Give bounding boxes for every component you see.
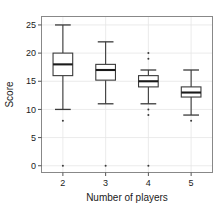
outlier-point — [190, 120, 192, 122]
outlier-point — [147, 114, 149, 116]
y-tick-label: 5 — [31, 133, 36, 143]
x-tick-label: 5 — [189, 178, 194, 188]
boxplot-canvas: 05101520252345Number of playersScore — [0, 0, 220, 211]
y-tick-label: 25 — [26, 20, 36, 30]
boxplot-figure: 05101520252345Number of playersScore — [0, 0, 220, 211]
box-iqr — [96, 64, 116, 80]
outlier-point — [147, 108, 149, 110]
y-tick-label: 20 — [26, 48, 36, 58]
y-axis-title: Score — [4, 81, 15, 108]
outlier-point — [62, 120, 64, 122]
x-axis-title: Number of players — [86, 192, 168, 203]
y-tick-label: 0 — [31, 161, 36, 171]
y-tick-label: 10 — [26, 105, 36, 115]
outlier-point — [105, 165, 107, 167]
x-tick-label: 2 — [60, 178, 65, 188]
outlier-point — [147, 165, 149, 167]
x-tick-label: 4 — [146, 178, 151, 188]
outlier-point — [147, 52, 149, 54]
outlier-point — [147, 58, 149, 60]
y-tick-label: 15 — [26, 76, 36, 86]
outlier-point — [62, 165, 64, 167]
x-tick-label: 3 — [103, 178, 108, 188]
